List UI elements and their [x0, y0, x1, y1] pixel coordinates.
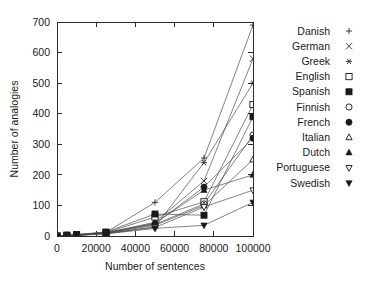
data-point-square-filled: [201, 212, 207, 218]
y-tick-label: 500: [32, 77, 50, 89]
data-point-square-filled: [346, 89, 352, 95]
x-tick-label: 60000: [160, 242, 189, 254]
y-tick-label: 200: [32, 169, 50, 181]
data-point-square-filled: [152, 211, 158, 217]
y-tick-label: 0: [44, 230, 50, 242]
chart-figure: 0100200300400500600700020000400006000080…: [0, 0, 367, 286]
legend-label-danish: Danish: [297, 25, 330, 37]
y-tick-label: 600: [32, 46, 50, 58]
x-axis-title: Number of sentences: [105, 260, 205, 272]
y-axis-title: Number of analogies: [8, 81, 20, 178]
legend-label-swedish: Swedish: [290, 177, 330, 189]
legend-label-spanish: Spanish: [292, 85, 330, 97]
y-tick-label: 700: [32, 16, 50, 28]
x-tick-label: 0: [54, 242, 60, 254]
legend-label-dutch: Dutch: [303, 146, 331, 158]
y-tick-label: 400: [32, 107, 50, 119]
legend-label-finnish: Finnish: [296, 101, 330, 113]
x-tick-label: 100000: [235, 242, 270, 254]
data-point-circle-filled: [346, 119, 352, 125]
analogies-vs-sentences-line-chart: 0100200300400500600700020000400006000080…: [0, 0, 367, 286]
x-tick-label: 20000: [82, 242, 111, 254]
legend-label-german: German: [292, 40, 330, 52]
legend-label-portuguese: Portuguese: [276, 161, 330, 173]
legend-label-french: French: [297, 116, 330, 128]
y-tick-label: 300: [32, 138, 50, 150]
legend-label-greek: Greek: [301, 55, 330, 67]
y-tick-label: 100: [32, 199, 50, 211]
data-point-square-open: [346, 74, 352, 80]
legend-label-italian: Italian: [302, 131, 330, 143]
legend-label-english: English: [296, 70, 331, 82]
x-tick-label: 40000: [121, 242, 150, 254]
x-tick-label: 80000: [199, 242, 228, 254]
data-point-circle-open: [346, 104, 352, 110]
